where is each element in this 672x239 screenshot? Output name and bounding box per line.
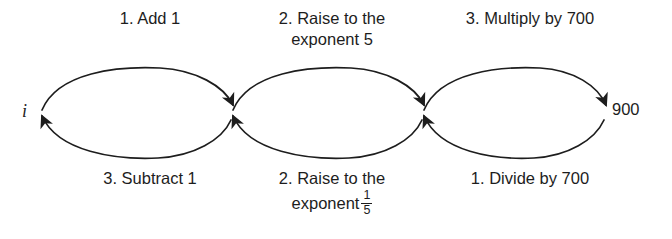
- reverse-label-3: 1. Divide by 700: [432, 168, 628, 189]
- exponent-fraction: 15: [361, 189, 372, 217]
- forward-label-1-line1: 1. Add 1: [120, 9, 181, 27]
- reverse-label-2: 2. Raise to the exponent15: [246, 168, 418, 217]
- reverse-label-1: 3. Subtract 1: [62, 168, 238, 189]
- forward-label-2-line2: exponent 5: [291, 30, 373, 48]
- arc-reverse-1: [42, 116, 231, 158]
- arc-reverse-3: [424, 116, 604, 158]
- endpoint-label-left: i: [22, 101, 27, 122]
- reverse-label-2-line2: exponent: [292, 194, 360, 212]
- forward-label-2-line1: 2. Raise to the: [279, 9, 385, 27]
- fraction-numerator: 1: [361, 189, 372, 202]
- arc-forward-3: [424, 68, 606, 110]
- reverse-label-1-line1: 3. Subtract 1: [103, 169, 197, 187]
- endpoint-label-right: 900: [612, 100, 640, 119]
- forward-label-3: 3. Multiply by 700: [432, 8, 628, 29]
- reverse-label-3-line1: 1. Divide by 700: [471, 169, 589, 187]
- arc-reverse-2: [233, 116, 422, 158]
- forward-label-1: 1. Add 1: [62, 8, 238, 29]
- diagram-canvas: i 900 1. Add 1 2. Raise to the exponent …: [0, 0, 672, 239]
- forward-label-3-line1: 3. Multiply by 700: [466, 9, 594, 27]
- arc-forward-1: [42, 68, 233, 110]
- arc-forward-2: [233, 68, 424, 110]
- fraction-denominator: 5: [361, 204, 372, 217]
- forward-label-2: 2. Raise to the exponent 5: [246, 8, 418, 50]
- reverse-label-2-line1: 2. Raise to the: [279, 169, 385, 187]
